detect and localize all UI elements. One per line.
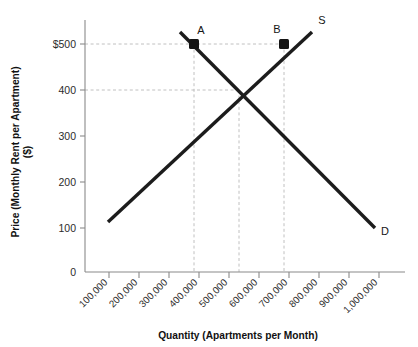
point-label-a: A [197, 24, 205, 36]
supply-demand-chart: $500 400 300 200 100 0 100,000 200,000 3… [0, 0, 418, 347]
curve-label-d: D [381, 225, 389, 237]
curves [108, 32, 375, 228]
y-tick-label-100: 100 [58, 222, 76, 234]
curve-label-s: S [318, 14, 325, 26]
x-tick-label-200000: 200,000 [107, 276, 140, 309]
y-tick-label-300: 300 [58, 130, 76, 142]
x-axis-labels: 100,000 200,000 300,000 400,000 500,000 … [77, 276, 380, 315]
point-label-b: B [273, 23, 280, 35]
x-tick-label-800000: 800,000 [287, 276, 320, 309]
point-marker-a [189, 39, 199, 49]
axes [85, 20, 405, 272]
x-axis-ticks [109, 272, 379, 278]
x-tick-label-700000: 700,000 [257, 276, 290, 309]
y-tick-label-400: 400 [58, 84, 76, 96]
x-axis-title: Quantity (Apartments per Month) [158, 330, 318, 341]
y-axis-labels: $500 400 300 200 100 0 [53, 38, 77, 278]
x-tick-label-100000: 100,000 [77, 276, 110, 309]
chart-canvas: $500 400 300 200 100 0 100,000 200,000 3… [0, 0, 418, 347]
x-tick-label-400000: 400,000 [167, 276, 200, 309]
x-tick-label-300000: 300,000 [137, 276, 170, 309]
y-tick-label-500: $500 [53, 38, 77, 50]
point-marker-b [279, 39, 289, 49]
y-tick-label-200: 200 [58, 176, 76, 188]
y-axis-ticks [80, 44, 85, 228]
x-tick-label-500000: 500,000 [197, 276, 230, 309]
y-tick-label-0: 0 [70, 266, 76, 278]
guide-lines [85, 44, 284, 272]
y-axis-title-line1: Price (Monthly Rent per Apartment) [10, 66, 21, 237]
x-tick-label-600000: 600,000 [227, 276, 260, 309]
y-axis-title-line2: ($) [22, 146, 33, 158]
